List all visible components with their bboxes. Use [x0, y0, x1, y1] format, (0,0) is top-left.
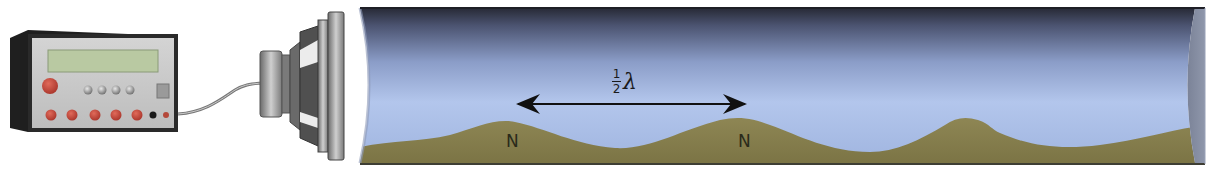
- fraction-numerator: 1: [613, 68, 621, 80]
- loudspeaker: [260, 12, 344, 160]
- kundts-tube-diagram: [0, 0, 1217, 172]
- fraction: 1 2: [612, 68, 621, 95]
- generator-output-jack[interactable]: [150, 112, 157, 119]
- fraction-denominator: 2: [613, 83, 621, 95]
- generator-main-knob[interactable]: [42, 78, 58, 94]
- tube: [348, 6, 1205, 166]
- node-label-2: N: [738, 131, 751, 151]
- half-wavelength-label: 1 2 λ: [612, 68, 637, 95]
- signal-generator: [10, 30, 178, 132]
- generator-display: [48, 50, 158, 72]
- node-label-1: N: [506, 131, 519, 151]
- cable: [178, 83, 262, 114]
- generator-led: [163, 112, 169, 118]
- lambda-symbol: λ: [623, 69, 637, 94]
- generator-square-button[interactable]: [157, 84, 169, 98]
